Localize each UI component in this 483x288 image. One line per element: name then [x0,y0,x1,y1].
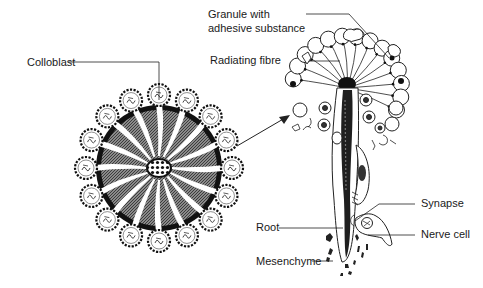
leader-colloblast [68,62,159,100]
arrow-icon [237,115,290,146]
label-granule-line1: Granule with [208,8,270,21]
diagram-canvas: Colloblast Granule with adhesive substan… [0,0,483,288]
colloblast-section-figure [285,28,409,276]
colloblast-surface-figure [75,84,243,252]
diagram-svg [0,0,483,288]
label-granule-line2: adhesive substance [208,22,305,35]
label-mesenchyme: Mesenchyme [256,255,321,268]
label-colloblast: Colloblast [27,56,75,69]
label-root: Root [256,221,279,234]
label-synapse: Synapse [421,197,464,210]
label-radiating-fibre: Radiating fibre [210,54,281,67]
label-nerve-cell: Nerve cell [421,228,470,241]
